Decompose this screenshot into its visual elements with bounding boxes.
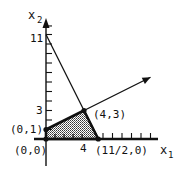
y-axis-subscript: 2	[37, 15, 42, 25]
y-axis-label: x	[28, 8, 35, 22]
vertex-dot	[81, 108, 86, 113]
lp-diagram: x 2 x 1 11 3 4 (0,1) (0,0) (4,3) (11/2,0…	[0, 0, 180, 177]
point-label-0-1: (0,1)	[10, 123, 43, 136]
x-axis-label: x	[160, 143, 167, 157]
point-label-0-0: (0,0)	[14, 144, 47, 157]
ray-from-0-1-through-4-3	[46, 77, 151, 129]
vertex-dot	[96, 136, 101, 141]
y-tick-label-3: 3	[36, 104, 43, 117]
vertex-dot	[43, 136, 48, 141]
vertex-dot	[43, 127, 48, 132]
x-axis-subscript: 1	[168, 150, 173, 160]
point-label-11-2-0: (11/2,0)	[95, 144, 148, 157]
y-tick-label-11: 11	[30, 32, 43, 45]
x-tick-label-4: 4	[80, 142, 87, 155]
point-label-4-3: (4,3)	[93, 108, 126, 121]
